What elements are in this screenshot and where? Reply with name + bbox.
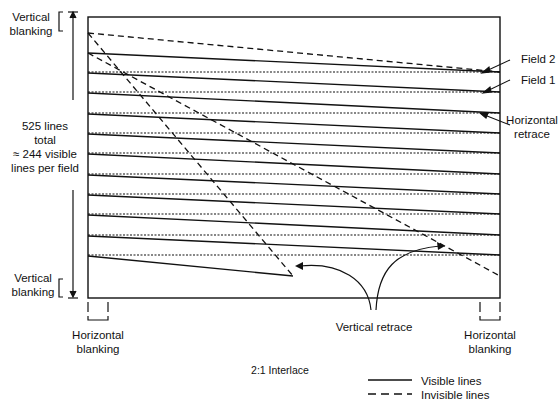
label-line: ≈ 244 visible — [2, 147, 88, 161]
label-line: lines per field — [2, 161, 88, 175]
total-lines-label: 525 lines total ≈ 244 visible lines per … — [2, 119, 88, 175]
label-line: 525 lines — [2, 119, 88, 133]
vertical-blanking-top-label: Vertical blanking — [6, 10, 56, 38]
label-line: Horizontal — [504, 113, 559, 127]
label-line: retrace — [504, 127, 559, 141]
horizontal-blanking-right-label: Horizontal blanking — [462, 328, 518, 356]
diagram-title: 2:1 Interlace — [250, 363, 310, 377]
label-line: blanking — [6, 24, 56, 38]
legend-visible-label: Visible lines — [421, 374, 482, 388]
field-2-label: Field 2 — [521, 52, 556, 66]
label-line: Horizontal — [462, 328, 518, 342]
legend-invisible-label: Invisible lines — [421, 388, 489, 402]
vertical-retrace-arrows — [300, 246, 440, 310]
scan-lines — [88, 33, 500, 276]
horizontal-retrace-label: Horizontal retrace — [504, 113, 559, 141]
legend-swatches — [368, 380, 412, 394]
label-line: Vertical — [6, 10, 56, 24]
horizontal-blanking-left-label: Horizontal blanking — [70, 328, 126, 356]
horizontal-blanking-brackets — [88, 302, 500, 320]
label-line: blanking — [8, 285, 58, 299]
vertical-retrace-label: Vertical retrace — [334, 320, 414, 334]
label-line: Vertical — [8, 271, 58, 285]
label-line: blanking — [70, 342, 126, 356]
vertical-blanking-bottom-label: Vertical blanking — [8, 271, 58, 299]
label-line: total — [2, 133, 88, 147]
label-line: blanking — [462, 342, 518, 356]
field-1-label: Field 1 — [521, 73, 556, 87]
label-line: Horizontal — [70, 328, 126, 342]
